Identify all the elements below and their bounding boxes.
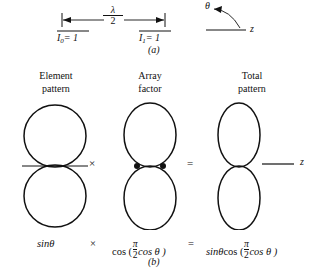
equation-two-denominator: 2 — [133, 249, 138, 260]
column-heading-array-line1: Array — [138, 70, 161, 81]
equation-total-pattern: sinθcos (π2cos θ ) — [206, 239, 277, 259]
total-pattern-diagram — [206, 102, 272, 230]
element-pattern-diagram — [8, 104, 102, 228]
column-heading-element-pattern: Element pattern — [14, 70, 98, 95]
array-element-dot-0 — [134, 163, 140, 169]
element-1-current-label: I1= 1 — [139, 33, 160, 45]
column-heading-total-line1: Total — [242, 70, 262, 81]
equation-cos-open: cos ( — [112, 246, 132, 257]
caption-b: (b) — [148, 257, 160, 267]
array-factor-diagram — [112, 102, 188, 230]
operator-equals: = — [187, 158, 193, 169]
array-element-dot-1 — [160, 163, 166, 169]
column-heading-element-line2: pattern — [42, 83, 70, 94]
equation-total-sin-theta: sinθ — [206, 246, 223, 257]
spacing-label-lambda-over-two: λ 2 — [103, 5, 123, 26]
spacing-numerator: λ — [103, 5, 123, 15]
equation-element-pattern: sinθ — [37, 239, 54, 250]
part-a-array-geometry: λ 2 I0= 1 I1= 1 θ z (a) — [0, 0, 314, 58]
spacing-denominator: 2 — [103, 15, 123, 26]
z-axis-line-part-b — [262, 162, 296, 166]
caption-a: (a) — [148, 45, 160, 55]
equation-cos-theta-close: cos θ ) — [138, 246, 166, 257]
equation-total-cos-theta-close: cos θ ) — [249, 246, 277, 257]
z-axis-label-part-a: z — [250, 24, 254, 34]
element-0-current-label: I0= 1 — [57, 33, 78, 45]
column-heading-total-pattern: Total pattern — [210, 70, 294, 95]
column-heading-total-line2: pattern — [238, 83, 266, 94]
theta-label: θ — [205, 1, 210, 11]
antenna-array-pattern-multiplication-figure: λ 2 I0= 1 I1= 1 θ z (a) — [0, 0, 314, 274]
equation-pi-numerator: π — [133, 239, 138, 249]
element-0-current-value: = 1 — [64, 32, 78, 43]
column-heading-element-line1: Element — [39, 70, 72, 81]
column-heading-array-line2: factor — [138, 83, 161, 94]
equation-operator-equals: = — [188, 239, 194, 250]
z-axis-label-part-b: z — [300, 157, 304, 167]
column-heading-array-factor: Array factor — [110, 70, 190, 95]
theta-z-axis-indicator — [200, 2, 270, 38]
operator-multiply: × — [89, 158, 95, 169]
equation-pi-over-two: π2 — [133, 239, 138, 259]
equation-operator-multiply: × — [90, 239, 96, 250]
element-1-current-value: = 1 — [146, 32, 160, 43]
equation-total-cos-open: cos ( — [223, 246, 243, 257]
equation-sin-theta: sinθ — [37, 238, 54, 249]
part-b-pattern-multiplication: Element pattern Array factor Total patte… — [0, 58, 314, 274]
